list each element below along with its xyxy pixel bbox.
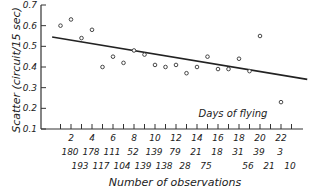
observation-count: 193 bbox=[71, 161, 88, 171]
observation-count: 56 bbox=[242, 161, 254, 171]
observation-count: 104 bbox=[113, 161, 130, 171]
data-point bbox=[237, 57, 241, 61]
data-point bbox=[111, 55, 115, 59]
data-point bbox=[143, 53, 147, 57]
x-axis-title: Number of observations bbox=[109, 176, 242, 189]
x-tick-label: 22 bbox=[275, 133, 287, 143]
observation-counts: 1801781115213979211831393193117104139138… bbox=[61, 147, 296, 171]
observation-count: 3 bbox=[277, 147, 283, 157]
x-tick-label: 20 bbox=[254, 133, 266, 143]
observation-count: 21 bbox=[190, 147, 201, 157]
observation-count: 75 bbox=[200, 161, 212, 171]
observation-count: 31 bbox=[232, 147, 243, 157]
x-tick-label: 14 bbox=[191, 133, 203, 143]
observation-count: 111 bbox=[103, 147, 120, 157]
data-points bbox=[59, 18, 283, 104]
observation-count: 21 bbox=[263, 161, 274, 171]
trend-line bbox=[52, 37, 307, 79]
observation-count: 117 bbox=[92, 161, 109, 171]
y-axis-title: Scatter (circuit/15 sec) bbox=[10, 7, 23, 133]
observation-count: 79 bbox=[169, 147, 181, 157]
data-point bbox=[80, 36, 84, 40]
days-of-flying-annotation: Days of flying bbox=[199, 108, 268, 119]
data-point bbox=[69, 18, 73, 22]
data-point bbox=[227, 67, 231, 71]
observation-count: 180 bbox=[61, 147, 78, 157]
y-tick-label: 0.2 bbox=[23, 103, 38, 113]
observation-count: 139 bbox=[145, 147, 162, 157]
y-tick-label: 0.3 bbox=[23, 83, 38, 93]
data-point bbox=[174, 63, 178, 67]
y-tick-label: 0.6 bbox=[23, 21, 38, 31]
observation-count: 39 bbox=[253, 147, 265, 157]
observation-count: 18 bbox=[211, 147, 223, 157]
data-point bbox=[195, 65, 199, 69]
x-tick-label: 2 bbox=[68, 133, 74, 143]
data-point bbox=[90, 28, 94, 32]
x-tick-label: 18 bbox=[233, 133, 245, 143]
data-point bbox=[122, 61, 126, 65]
y-tick-label: 0.7 bbox=[23, 0, 38, 10]
data-point bbox=[216, 67, 220, 71]
x-tick-label: 8 bbox=[131, 133, 137, 143]
x-tick-label: 16 bbox=[212, 133, 224, 143]
observation-count: 52 bbox=[127, 147, 139, 157]
data-point bbox=[132, 49, 136, 53]
y-tick-label: 0.4 bbox=[23, 62, 38, 72]
x-tick-label: 6 bbox=[110, 133, 116, 143]
scatter-chart: 0.10.20.30.40.50.60.7 246810121416182022… bbox=[0, 0, 309, 191]
y-axis: 0.10.20.30.40.50.60.7 bbox=[23, 0, 46, 134]
data-point bbox=[59, 24, 63, 28]
data-point bbox=[248, 69, 252, 73]
data-point bbox=[153, 63, 157, 67]
y-tick-label: 0.5 bbox=[23, 41, 38, 51]
x-tick-label: 12 bbox=[170, 133, 182, 143]
x-axis: 246810121416182022 bbox=[41, 124, 303, 143]
data-point bbox=[258, 34, 262, 38]
data-point bbox=[101, 65, 105, 69]
data-point bbox=[206, 55, 210, 59]
observation-count: 28 bbox=[179, 161, 191, 171]
y-tick-label: 0.1 bbox=[23, 124, 37, 134]
observation-count: 138 bbox=[155, 161, 172, 171]
observation-count: 10 bbox=[284, 161, 296, 171]
observation-count: 139 bbox=[134, 161, 151, 171]
data-point bbox=[164, 65, 168, 69]
x-tick-label: 4 bbox=[89, 133, 95, 143]
data-point bbox=[185, 71, 189, 75]
observation-count: 178 bbox=[82, 147, 99, 157]
data-point bbox=[279, 100, 283, 104]
x-tick-label: 10 bbox=[149, 133, 161, 143]
